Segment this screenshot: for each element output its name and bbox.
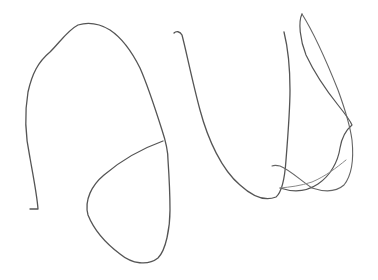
sketch-drawing bbox=[0, 0, 378, 280]
left-arch-stroke bbox=[26, 24, 170, 263]
middle-u-stroke bbox=[174, 32, 290, 199]
bottom-crossing-tail bbox=[280, 160, 346, 188]
sketch-canvas bbox=[0, 0, 378, 280]
